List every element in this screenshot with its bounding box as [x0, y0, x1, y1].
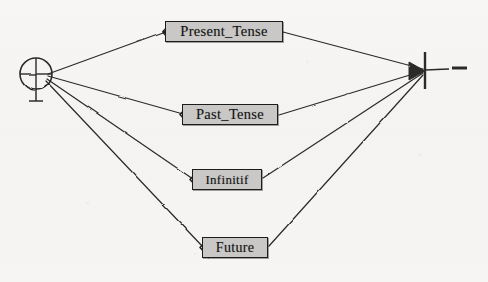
edge-past-to-end: [279, 71, 423, 115]
edge-start-to-present: [48, 31, 166, 74]
node-present-tense[interactable]: Present_Tense: [165, 21, 283, 42]
edge-infinitif-to-end: [263, 73, 423, 178]
node-infinitif[interactable]: Infinitif: [192, 169, 262, 190]
node-entry-arrowheads: [163, 22, 209, 257]
edge-future-to-end: [269, 75, 423, 246]
edge-start-to-infinitif: [47, 79, 193, 179]
edge-start-to-past: [48, 76, 183, 114]
node-past-tense[interactable]: Past_Tense: [182, 104, 278, 125]
edge-present-to-end: [283, 32, 423, 69]
transition-network-diagram: Present_Tense Past_Tense Infinitif Futur…: [0, 0, 488, 282]
end-node-glyph: [409, 52, 467, 89]
node-future[interactable]: Future: [202, 237, 268, 258]
node-past-tense-label: Past_Tense: [196, 107, 264, 122]
edge-start-to-future: [46, 81, 203, 247]
node-future-label: Future: [216, 241, 254, 255]
node-present-tense-label: Present_Tense: [180, 24, 267, 39]
node-infinitif-label: Infinitif: [205, 173, 248, 186]
